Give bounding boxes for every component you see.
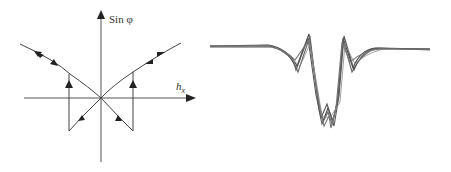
arrow-icon [65,80,73,88]
arrow-icon [115,115,122,121]
arrow-icon [129,80,137,88]
left-branch-curve [20,44,133,131]
x-axis-label: hx [176,80,186,95]
figure: Sin φ hx [0,0,451,172]
y-axis-label: Sin φ [109,13,133,25]
right-branch-curve [69,43,181,131]
y-axis-arrowhead [97,10,105,19]
x-axis-arrowhead [186,94,196,102]
signal-traces [210,34,430,128]
arrow-icon [78,115,85,121]
hysteresis-diagram [20,10,196,162]
